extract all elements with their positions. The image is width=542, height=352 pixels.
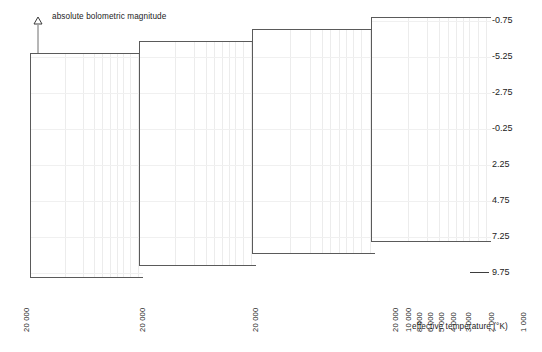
grid-line-horizontal bbox=[140, 57, 256, 58]
grid-line-vertical bbox=[322, 30, 323, 253]
y-axis-tick: 9.75 bbox=[470, 266, 542, 278]
panel-3 bbox=[252, 29, 375, 254]
grid-line-horizontal bbox=[253, 57, 375, 58]
grid-line-vertical bbox=[290, 30, 291, 253]
grid-line-vertical bbox=[330, 30, 331, 253]
grid-line-vertical bbox=[214, 42, 215, 265]
grid-line-vertical bbox=[222, 42, 223, 265]
grid-line-horizontal bbox=[372, 21, 491, 22]
panel-4 bbox=[371, 17, 491, 242]
grid-line-horizontal bbox=[253, 237, 375, 238]
grid-line-horizontal bbox=[372, 237, 491, 238]
grid-line-vertical bbox=[194, 42, 195, 265]
hr-diagram-figure: absolute bolometric magnitude -0.75-5.25… bbox=[0, 0, 542, 352]
grid-line-horizontal bbox=[31, 129, 143, 130]
grid-line-horizontal bbox=[140, 129, 256, 130]
y-axis-tick-label: -0.75 bbox=[492, 14, 513, 26]
grid-line-horizontal bbox=[253, 201, 375, 202]
grid-line-vertical bbox=[243, 42, 244, 265]
up-arrow-icon bbox=[32, 14, 44, 56]
x-axis-title: effective temperature (°K) bbox=[412, 322, 508, 331]
grid-line-horizontal bbox=[253, 129, 375, 130]
grid-line-horizontal bbox=[372, 129, 491, 130]
grid-line-vertical bbox=[346, 30, 347, 253]
grid-line-horizontal bbox=[140, 201, 256, 202]
y-axis-tick-label: 7.25 bbox=[492, 230, 510, 242]
grid-line-horizontal bbox=[31, 165, 143, 166]
y-axis-tick-label: 4.75 bbox=[492, 194, 510, 206]
grid-line-vertical bbox=[235, 42, 236, 265]
grid-line-vertical bbox=[353, 30, 354, 253]
grid-line-horizontal bbox=[372, 201, 491, 202]
grid-line-vertical bbox=[229, 42, 230, 265]
grid-line-horizontal bbox=[253, 165, 375, 166]
panel-2-grid bbox=[140, 42, 256, 265]
panel-2 bbox=[139, 41, 256, 266]
grid-line-horizontal bbox=[372, 57, 491, 58]
y-axis-tick-label: -2.75 bbox=[492, 86, 513, 98]
panel-3-grid bbox=[253, 30, 375, 253]
grid-line-horizontal bbox=[31, 273, 143, 274]
panel-4-grid bbox=[372, 18, 491, 241]
y-axis-tick-label: -0.25 bbox=[492, 122, 513, 134]
grid-line-horizontal bbox=[140, 237, 256, 238]
grid-line-horizontal bbox=[31, 57, 143, 58]
grid-line-horizontal bbox=[253, 93, 375, 94]
x-axis-tick-label: 20 000 bbox=[138, 308, 147, 332]
panel-1 bbox=[30, 53, 143, 278]
y-axis-title: absolute bolometric magnitude bbox=[52, 12, 166, 21]
grid-line-horizontal bbox=[140, 93, 256, 94]
grid-line-horizontal bbox=[372, 165, 491, 166]
y-axis-tick-rule bbox=[470, 272, 489, 273]
grid-line-horizontal bbox=[31, 201, 143, 202]
x-axis-tick-label: 1 000 bbox=[519, 312, 528, 332]
grid-line-vertical bbox=[206, 42, 207, 265]
grid-line-horizontal bbox=[140, 165, 256, 166]
grid-line-horizontal bbox=[372, 93, 491, 94]
grid-line-vertical bbox=[175, 42, 176, 265]
x-axis-tick-label: 20 000 bbox=[391, 308, 400, 332]
grid-line-horizontal bbox=[31, 93, 143, 94]
grid-line-horizontal bbox=[31, 237, 143, 238]
grid-line-vertical bbox=[361, 30, 362, 253]
grid-line-vertical bbox=[310, 30, 311, 253]
grid-line-vertical bbox=[339, 30, 340, 253]
y-axis-tick-label: -5.25 bbox=[492, 50, 513, 62]
x-axis-tick-label: 20 000 bbox=[22, 308, 31, 332]
y-axis-tick-label: 2.25 bbox=[492, 158, 510, 170]
panel-1-grid bbox=[31, 54, 143, 277]
x-axis-tick-label: 20 000 bbox=[251, 308, 260, 332]
y-axis-tick-label: 9.75 bbox=[492, 266, 510, 278]
